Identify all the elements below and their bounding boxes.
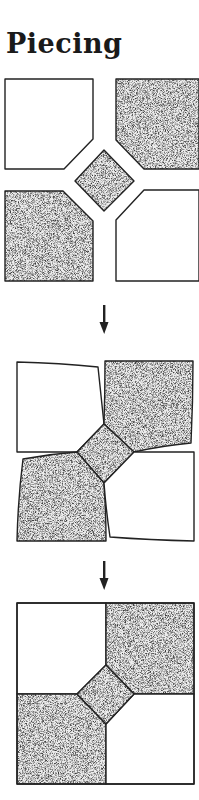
center-diamond-piece [75, 150, 134, 211]
step-2-pieces [17, 361, 194, 541]
down-arrow-icon [100, 305, 109, 334]
piecing-diagram [0, 0, 199, 800]
top-left-white-piece [5, 79, 93, 169]
bottom-right-white-piece [116, 190, 199, 281]
bottom-left-stippled-piece [5, 191, 93, 281]
step-3-finished-block [17, 603, 194, 784]
top-right-stippled-piece [116, 79, 199, 169]
step-1-pieces [5, 79, 199, 281]
down-arrow-icon [100, 561, 109, 590]
